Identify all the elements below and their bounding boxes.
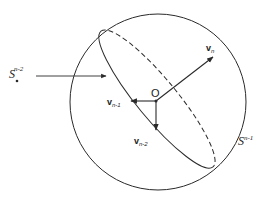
vector-v-n-arrow [156,57,213,101]
subsphere-label: Sn-2 [9,65,24,81]
origin-point [155,100,158,103]
sphere-diagram: O vn vn-1 vn-2 Sn-1 Sn-2 [0,0,273,200]
sphere-outline [70,14,246,190]
subsphere-back-arc [101,18,228,167]
subsphere-front-arc [86,31,213,180]
vector-v-n-label: vn [206,43,215,54]
sphere-label: Sn-1 [238,134,253,148]
origin-label: O [151,87,160,99]
vector-v-n-minus-1-label: vn-1 [107,97,121,108]
subsphere-label-subscript-dot [16,80,19,83]
vector-v-n-minus-2-label: vn-2 [134,136,148,147]
